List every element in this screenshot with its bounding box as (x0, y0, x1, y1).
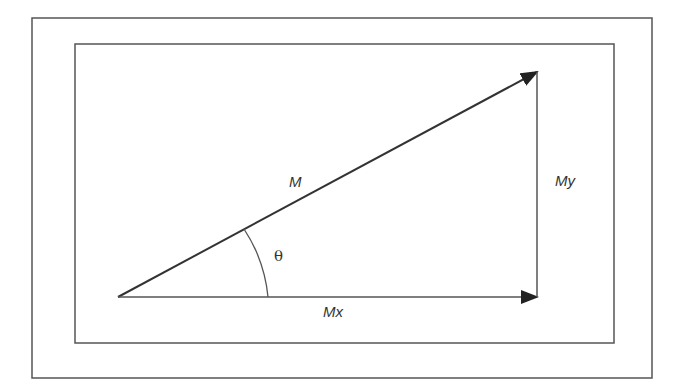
label-m: M (289, 173, 302, 190)
outer-frame (32, 18, 652, 378)
vector-m (118, 72, 537, 297)
vector-diagram: M My Mx θ (0, 0, 682, 391)
angle-arc (244, 229, 268, 297)
inner-frame (75, 44, 614, 343)
label-mx: Mx (323, 303, 343, 320)
label-theta: θ (274, 247, 283, 265)
label-my: My (555, 172, 576, 189)
